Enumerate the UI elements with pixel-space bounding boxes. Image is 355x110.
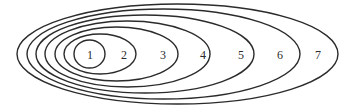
label-4: 4 <box>200 48 206 62</box>
label-group: 1 2 3 4 5 6 7 <box>87 48 321 62</box>
label-5: 5 <box>238 48 244 62</box>
label-1: 1 <box>87 48 93 62</box>
nested-ellipse-diagram: 1 2 3 4 5 6 7 <box>0 0 355 110</box>
ellipse-4 <box>45 21 210 87</box>
label-3: 3 <box>160 48 166 62</box>
ellipse-5 <box>36 15 254 93</box>
label-2: 2 <box>121 48 127 62</box>
label-7: 7 <box>315 48 321 62</box>
label-6: 6 <box>277 48 283 62</box>
ellipse-group <box>17 4 338 104</box>
